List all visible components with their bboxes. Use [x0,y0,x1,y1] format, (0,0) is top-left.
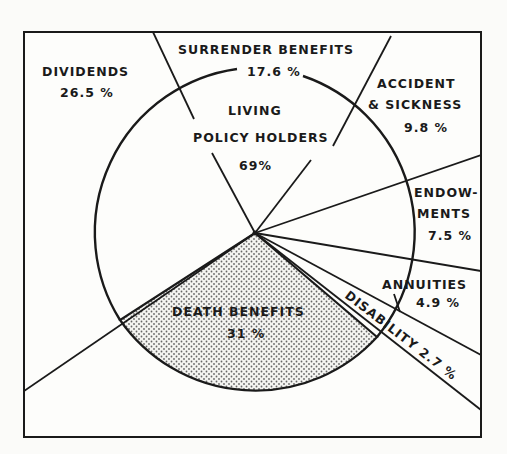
label-living-line2: POLICY HOLDERS [193,130,329,145]
label-death-pct: 31 % [227,326,265,341]
label-annuities-pct: 4.9 % [416,295,460,310]
label-accident-line1: ACCIDENT [377,76,456,91]
label-endowments-line1: ENDOW- [414,185,478,200]
label-dividends-pct: 26.5 % [60,85,114,100]
label-surrender-pct: 17.6 % [247,64,301,79]
label-annuities-name: ANNUITIES [382,277,467,292]
label-living-pct: 69% [239,158,272,173]
label-living-line1: LIVING [228,103,282,118]
label-endowments-pct: 7.5 % [428,228,472,243]
label-accident-pct: 9.8 % [404,120,448,135]
label-dividends-name: DIVIDENDS [42,64,129,79]
pie-chart: DIVIDENDS 26.5 % SURRENDER BENEFITS 17.6… [0,0,507,454]
label-surrender-name: SURRENDER BENEFITS [178,42,354,57]
label-accident-line2: & SICKNESS [368,97,462,112]
label-endowments-line2: MENTS [417,206,471,221]
label-death-name: DEATH BENEFITS [172,304,305,319]
pie-center [253,231,258,236]
